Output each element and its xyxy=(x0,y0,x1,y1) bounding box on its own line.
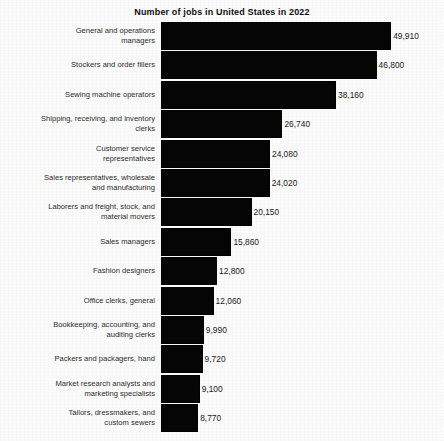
category-label-line: Sales representatives, wholesale xyxy=(44,173,155,183)
bar[interactable] xyxy=(161,51,377,79)
chart-row: Shipping, receiving, and inventoryclerks… xyxy=(0,109,444,139)
bar-track xyxy=(161,80,336,110)
category-label-line: Bookkeeping, accounting, and xyxy=(53,320,155,330)
bar-track xyxy=(161,168,270,198)
bar-value-label: 15,860 xyxy=(231,227,259,257)
category-label-line: material movers xyxy=(101,212,155,222)
category-label-line: marketing specialists xyxy=(85,389,155,399)
bar-track xyxy=(161,315,204,345)
bar-value-label: 24,080 xyxy=(270,139,298,169)
category-label-line: custom sewers xyxy=(104,418,155,428)
category-label-line: Office clerks, general xyxy=(84,296,155,306)
category-label: General and operationsmanagers xyxy=(3,21,155,51)
category-label: Tailors, dressmakers, andcustom sewers xyxy=(3,403,155,433)
bar[interactable] xyxy=(161,316,204,344)
bar-track xyxy=(161,286,214,316)
bar-value-label: 38,160 xyxy=(336,80,364,110)
bar-value-label: 9,990 xyxy=(204,315,227,345)
category-label-line: Sales managers xyxy=(100,237,155,247)
category-label-line: Stockers and order fillers xyxy=(71,60,155,70)
chart-row: Packers and packagers, hand9,720 xyxy=(0,344,444,374)
bar-value-label: 49,910 xyxy=(391,21,419,51)
chart-row: Sewing machine operators38,160 xyxy=(0,80,444,110)
category-label-line: Laborers and freight, stock, and xyxy=(48,202,155,212)
category-label: Bookkeeping, accounting, andauditing cle… xyxy=(3,315,155,345)
bar-chart: Number of jobs in United States in 2022 … xyxy=(0,0,444,441)
chart-row: Stockers and order fillers46,800 xyxy=(0,50,444,80)
bar[interactable] xyxy=(161,140,270,168)
bar-track xyxy=(161,109,282,139)
bar-value-label: 46,800 xyxy=(377,50,405,80)
bar[interactable] xyxy=(161,375,200,403)
category-label: Laborers and freight, stock, andmaterial… xyxy=(3,197,155,227)
chart-row: Laborers and freight, stock, andmaterial… xyxy=(0,197,444,227)
bar-value-label: 20,150 xyxy=(252,197,280,227)
category-label-line: auditing clerks xyxy=(106,330,155,340)
chart-row: Sales representatives, wholesaleand manu… xyxy=(0,168,444,198)
bar[interactable] xyxy=(161,110,282,138)
bar-value-label: 12,060 xyxy=(214,286,242,316)
bar[interactable] xyxy=(161,257,217,285)
bar-track xyxy=(161,227,231,257)
bar-value-label: 9,720 xyxy=(203,344,226,374)
category-label-line: clerks xyxy=(135,124,155,134)
category-label: Packers and packagers, hand xyxy=(3,344,155,374)
bar-value-label: 26,740 xyxy=(282,109,310,139)
bar-value-label: 12,800 xyxy=(217,256,245,286)
category-label-line: Fashion designers xyxy=(93,266,155,276)
bar-value-label: 9,100 xyxy=(200,374,223,404)
category-label-line: and manufacturing xyxy=(92,183,155,193)
category-label: Sales representatives, wholesaleand manu… xyxy=(3,168,155,198)
category-label-line: Shipping, receiving, and inventory xyxy=(41,114,155,124)
category-label-line: Packers and packagers, hand xyxy=(55,354,155,364)
bar-track xyxy=(161,256,217,286)
bar-track xyxy=(161,403,198,433)
chart-row: Customer servicerepresentatives24,080 xyxy=(0,139,444,169)
category-label: Office clerks, general xyxy=(3,286,155,316)
category-label-line: Tailors, dressmakers, and xyxy=(68,408,155,418)
category-label-line: managers xyxy=(121,36,155,46)
bar-track xyxy=(161,21,391,51)
bar[interactable] xyxy=(161,198,252,226)
category-label-line: Market research analysts and xyxy=(55,379,155,389)
bar[interactable] xyxy=(161,169,270,197)
bar-track xyxy=(161,197,252,227)
category-label-line: Sewing machine operators xyxy=(65,90,155,100)
bar[interactable] xyxy=(161,345,203,373)
category-label: Sewing machine operators xyxy=(3,80,155,110)
chart-row: Tailors, dressmakers, andcustom sewers8,… xyxy=(0,403,444,433)
category-label: Market research analysts andmarketing sp… xyxy=(3,374,155,404)
category-label: Shipping, receiving, and inventoryclerks xyxy=(3,109,155,139)
chart-row: General and operationsmanagers49,910 xyxy=(0,21,444,51)
category-label: Customer servicerepresentatives xyxy=(3,139,155,169)
bar-value-label: 24,020 xyxy=(270,168,298,198)
chart-row: Market research analysts andmarketing sp… xyxy=(0,374,444,404)
chart-row: Fashion designers12,800 xyxy=(0,256,444,286)
bar[interactable] xyxy=(161,22,391,50)
bar-track xyxy=(161,50,377,80)
category-label: Stockers and order fillers xyxy=(3,50,155,80)
category-label-line: General and operations xyxy=(76,26,155,36)
bar[interactable] xyxy=(161,404,198,432)
bar-value-label: 8,770 xyxy=(198,403,221,433)
category-label-line: Customer service xyxy=(96,144,155,154)
bar-track xyxy=(161,344,203,374)
category-label: Fashion designers xyxy=(3,256,155,286)
category-label: Sales managers xyxy=(3,227,155,257)
bar[interactable] xyxy=(161,287,214,315)
chart-row: Office clerks, general12,060 xyxy=(0,286,444,316)
bar-track xyxy=(161,374,200,404)
bar[interactable] xyxy=(161,228,231,256)
bar[interactable] xyxy=(161,81,336,109)
bar-track xyxy=(161,139,270,169)
chart-row: Bookkeeping, accounting, andauditing cle… xyxy=(0,315,444,345)
chart-plot-area: General and operationsmanagers49,910Stoc… xyxy=(0,21,444,433)
chart-row: Sales managers15,860 xyxy=(0,227,444,257)
category-label-line: representatives xyxy=(103,154,155,164)
chart-title: Number of jobs in United States in 2022 xyxy=(0,7,444,17)
